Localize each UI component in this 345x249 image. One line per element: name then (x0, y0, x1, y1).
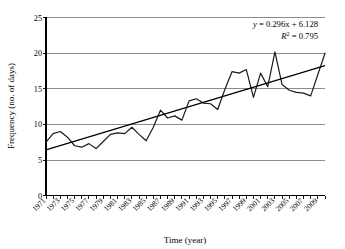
x-axis-title: Time (year) (164, 235, 206, 245)
equation-body: = 0.296x + 6.128 (257, 19, 318, 29)
r-squared-value: = 0.795 (290, 31, 318, 41)
chart-figure: 25 20 15 10 5 0 197119731975197719791981… (0, 0, 345, 249)
frequency-time-line-chart: 25 20 15 10 5 0 197119731975197719791981… (0, 0, 345, 249)
y-tick-label-5: 5 (38, 156, 42, 165)
y-tick-label-15: 15 (34, 85, 42, 94)
y-tick-label-25: 25 (34, 14, 42, 23)
y-axis-title: Frequency (no. of days) (6, 63, 16, 149)
y-tick-label-10: 10 (34, 120, 42, 129)
y-tick-label-20: 20 (34, 49, 42, 58)
trendline-equation: y = 0.296x + 6.128 (252, 19, 318, 29)
r-squared-annotation: R2 = 0.795 (280, 31, 318, 41)
